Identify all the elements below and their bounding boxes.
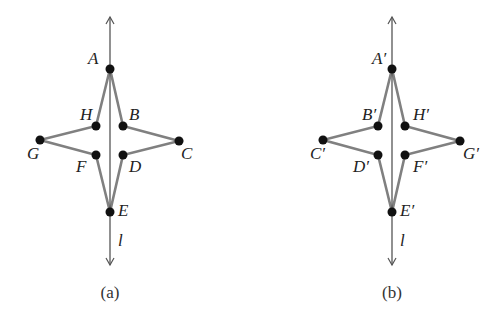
vertex-label: A′: [371, 49, 386, 68]
vertex-point: [119, 122, 128, 131]
vertex-label: D′: [352, 157, 369, 176]
vertex-point: [388, 65, 397, 74]
reflection-diagram: ABCDEFGHl(a) A′B′C′D′E′F′G′H′l(b): [0, 0, 497, 315]
vertex-point: [119, 151, 128, 160]
panel-b: A′B′C′D′E′F′G′H′l(b): [310, 17, 479, 302]
vertex-point: [388, 208, 397, 217]
vertex-label: H: [79, 105, 94, 124]
vertex-point: [92, 151, 101, 160]
vertex-point: [401, 151, 410, 160]
vertex-label: E′: [399, 201, 414, 220]
vertex-label: A: [87, 49, 99, 68]
vertex-label: E: [117, 201, 129, 220]
vertex-label: B: [129, 105, 140, 124]
vertex-label: C: [181, 144, 193, 163]
vertex-point: [401, 122, 410, 131]
vertex-point: [92, 122, 101, 131]
line-label: l: [400, 231, 405, 250]
vertex-label: C′: [310, 144, 325, 163]
vertex-point: [106, 65, 115, 74]
vertex-label: F: [75, 157, 87, 176]
panel-caption: (a): [101, 283, 120, 302]
vertex-point: [106, 208, 115, 217]
vertex-label: G: [27, 144, 39, 163]
panel-a: ABCDEFGHl(a): [27, 17, 193, 302]
vertex-point: [374, 151, 383, 160]
vertex-label: D: [128, 157, 142, 176]
line-label: l: [118, 231, 123, 250]
vertex-label: F′: [412, 157, 427, 176]
vertex-label: B′: [362, 105, 376, 124]
vertex-label: H′: [412, 105, 429, 124]
vertex-label: G′: [463, 144, 479, 163]
panel-caption: (b): [382, 283, 402, 302]
